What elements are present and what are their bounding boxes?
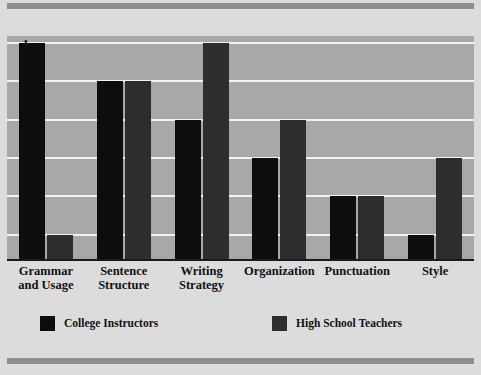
legend-label: High School Teachers [296,317,402,329]
x-axis-baseline [7,259,474,261]
x-label-line: and Usage [7,278,85,292]
legend-label: College Instructors [64,317,158,329]
x-axis-label: Punctuation [318,264,396,278]
legend-entry: College Instructors [40,312,158,334]
bar [358,196,384,259]
x-label-line: Style [396,264,474,278]
x-axis-label: Style [396,264,474,278]
bar-chart-figure: 123456 Grammarand UsageSentenceStructure… [0,0,481,375]
bar [252,158,278,259]
bar [97,81,123,259]
x-axis-label: SentenceStructure [85,264,163,292]
bar [280,120,306,259]
y-tick-label: 6 [23,228,30,241]
bottom-rule-band [7,358,474,364]
bar [47,235,73,260]
chart-legend: College InstructorsHigh School Teachers [7,312,474,338]
bar [125,81,151,259]
y-tick-label: 5 [23,190,30,203]
x-label-line: Writing [163,264,241,278]
x-axis-label: WritingStrategy [163,264,241,292]
x-label-line: Organization [241,264,319,278]
x-label-line: Grammar [7,264,85,278]
x-label-line: Sentence [85,264,163,278]
x-axis-label: Grammarand Usage [7,264,85,292]
x-label-line: Punctuation [318,264,396,278]
legend-entry: High School Teachers [272,312,402,334]
bar [175,120,201,259]
top-rule-band [7,3,474,9]
y-tick-label: 2 [23,75,30,88]
y-axis-tick-labels: 123456 [7,36,33,259]
x-label-line: Strategy [163,278,241,292]
x-axis-category-labels: Grammarand UsageSentenceStructureWriting… [7,264,474,304]
bar [408,235,434,260]
legend-swatch [272,316,287,331]
y-tick-label: 3 [23,113,30,126]
x-label-line: Structure [85,278,163,292]
bars-layer [7,36,474,259]
bar [436,158,462,259]
bar [203,43,229,259]
x-axis-label: Organization [241,264,319,278]
legend-swatch [40,316,55,331]
y-tick-label: 4 [23,151,30,164]
y-tick-label: 1 [23,37,30,50]
bar [330,196,356,259]
plot-area [7,36,474,259]
